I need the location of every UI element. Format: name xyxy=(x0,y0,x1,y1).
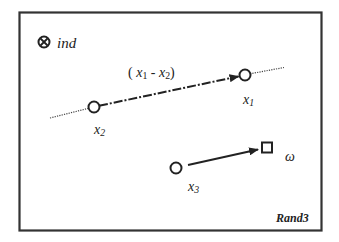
circled-times-icon xyxy=(39,37,50,48)
x3-sub: 3 xyxy=(194,184,199,195)
difference-label: ( x1 - x2) xyxy=(128,66,175,80)
node-x1 xyxy=(240,70,251,81)
x1-sub: 1 xyxy=(249,97,254,108)
node-x3 xyxy=(171,163,182,174)
node-x2-label: x2 xyxy=(94,123,105,137)
difference-open-paren: ( xyxy=(128,65,133,80)
mutation-arrow xyxy=(188,150,258,166)
diagram-title-label: Rand3 xyxy=(276,212,309,224)
dotted-line-right xyxy=(250,68,284,74)
difference-minus: - xyxy=(147,65,159,80)
diagram-canvas xyxy=(0,0,339,242)
node-omega-square xyxy=(262,143,272,153)
node-x2 xyxy=(89,102,100,113)
node-x3-label: x3 xyxy=(188,180,199,194)
difference-close-paren: ) xyxy=(170,65,175,80)
omega-label: ω xyxy=(285,150,295,164)
node-x1-label: x1 xyxy=(243,93,254,107)
dotted-line-left xyxy=(50,108,89,118)
x2-sub: 2 xyxy=(100,127,105,138)
legend-ind-label: ind xyxy=(57,36,76,51)
